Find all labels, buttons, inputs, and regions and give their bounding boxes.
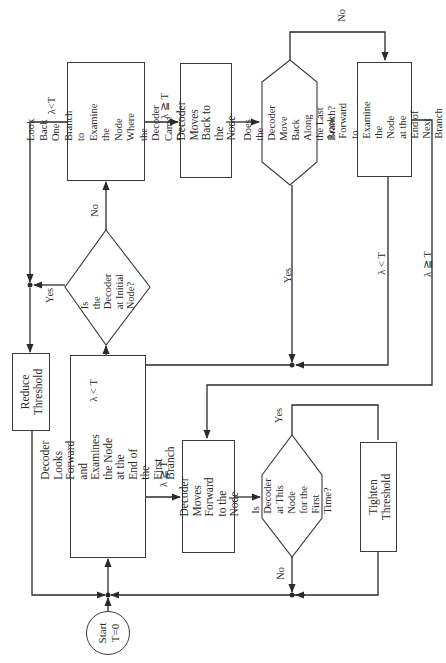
first-time-label: Is Decoder at This Node for the First Ti… <box>250 478 334 514</box>
first-time-question: Is Decoder at This Node for the First Ti… <box>262 435 322 557</box>
moves-forward-label: Decoder Moves Forward to the Node <box>177 477 240 516</box>
edge-label-yes-moveback: Yes <box>282 268 293 283</box>
look-back-box: Look Back One Branch to Examine the Node… <box>67 62 145 181</box>
moves-back-label: Decoder Moves Back to the Node <box>175 101 238 140</box>
edge-label-lt-next: λ < T <box>376 252 387 275</box>
edge-label-no-initial: No <box>89 204 100 217</box>
move-back-question: Does the Decoder Move Back Along the Las… <box>262 60 317 185</box>
edge-label-lt-lookback: λ<T <box>46 97 57 114</box>
moves-forward-box: Decoder Moves Forward to the Node <box>182 440 235 553</box>
edge-label-lt-first: λ < T <box>88 379 99 402</box>
initial-node-label: Is the Decoder at Initial Node? <box>79 266 137 309</box>
reduce-threshold-label: Reduce Threshold <box>19 369 44 416</box>
edge-label-ge-next: λ ≧ T <box>421 251 433 277</box>
moves-back-box: Decoder Moves Back to the Node <box>180 63 232 178</box>
edge-label-no-first-time: No <box>275 567 286 580</box>
look-forward-next-box: Look Forward to Examine the Node at the … <box>357 62 412 177</box>
reduce-threshold-box: Reduce Threshold <box>12 353 50 431</box>
edge-label-ge-lookback: λ ≧ T <box>158 93 170 119</box>
tighten-threshold-box: Tighten Threshold <box>360 442 397 552</box>
move-back-label: Does the Decoder Move Back Along the Las… <box>242 105 338 141</box>
edge-label-yes-initial: Yes <box>44 288 55 303</box>
look-forward-next-label: Look Forward to Examine the Node at the … <box>325 101 445 138</box>
edge-label-no-moveback: No <box>336 9 347 22</box>
tighten-threshold-label: Tighten Threshold <box>366 474 391 521</box>
initial-node-question: Is the Decoder at Initial Node? <box>65 230 150 345</box>
start-label: Start T=0 <box>96 623 121 644</box>
edge-label-ge-first: λ ≧ T <box>157 461 169 487</box>
edge-label-yes-first-time: Yes <box>273 408 284 423</box>
start-node: Start T=0 <box>86 611 130 655</box>
look-forward-first-box: Decoder Looks Forward and Examines the N… <box>70 355 146 558</box>
